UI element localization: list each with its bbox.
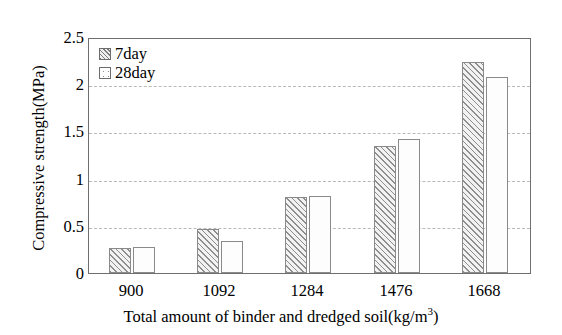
y-axis-tick-labels: 2.5 2 1.5 1 0.5 0 [32, 0, 84, 335]
x-axis-title-prefix: Total amount of binder and dredged soil(… [123, 307, 427, 326]
x-axis-title: Total amount of binder and dredged soil(… [0, 305, 562, 327]
bar-28day-1284 [309, 196, 331, 273]
x-tick-label: 1668 [439, 281, 529, 301]
bar-group-1668 [462, 39, 508, 273]
bar-7day-1476 [374, 146, 396, 273]
y-tick-label: 0.5 [36, 219, 84, 236]
x-tick-label: 900 [86, 281, 176, 301]
bar-28day-900 [133, 247, 155, 273]
chart-figure: Compressive strength(MPa) 2.5 2 1.5 1 0.… [0, 0, 562, 335]
bar-28day-1668 [486, 77, 508, 273]
y-tick-label: 1.5 [36, 124, 84, 141]
bar-group-1092 [197, 39, 243, 273]
bar-group-900 [109, 39, 155, 273]
y-tick-label: 0 [36, 266, 84, 283]
bar-7day-1668 [462, 62, 484, 274]
x-tick-label: 1092 [174, 281, 264, 301]
y-tick-label: 2.5 [36, 30, 84, 47]
y-tick-label: 1 [36, 172, 84, 189]
y-tick-label: 2 [36, 77, 84, 94]
x-tick-label: 1476 [351, 281, 441, 301]
x-axis-title-suffix: ) [433, 307, 439, 326]
bar-7day-1092 [197, 229, 219, 273]
bar-series-container [89, 39, 530, 273]
bar-28day-1092 [221, 241, 243, 273]
bar-7day-1284 [285, 197, 307, 274]
bar-group-1476 [374, 39, 420, 273]
bar-7day-900 [109, 248, 131, 274]
plot-area: 7day 28day [88, 38, 531, 274]
bar-28day-1476 [398, 139, 420, 273]
x-tick-label: 1284 [262, 281, 352, 301]
bar-group-1284 [285, 39, 331, 273]
x-axis-tick-labels: 900 1092 1284 1476 1668 [88, 281, 531, 305]
